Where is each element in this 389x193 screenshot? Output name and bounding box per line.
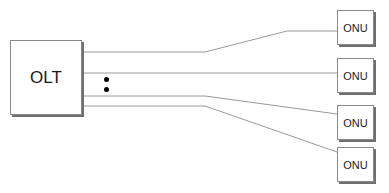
onu-box-1: ONU <box>337 10 374 45</box>
ellipsis-dot-1 <box>104 77 109 82</box>
onu-box-3: ONU <box>337 105 374 140</box>
onu-box-2: ONU <box>337 58 374 93</box>
fiber-line-1 <box>82 31 337 52</box>
onu-label: ONU <box>343 159 367 171</box>
onu-box-4: ONU <box>337 147 374 182</box>
onu-label: ONU <box>343 22 367 34</box>
onu-label: ONU <box>343 117 367 129</box>
fiber-line-4 <box>82 106 337 152</box>
olt-box: OLT <box>10 40 82 115</box>
fiber-line-3 <box>82 96 337 114</box>
onu-label: ONU <box>343 70 367 82</box>
ellipsis-dot-2 <box>104 87 109 92</box>
olt-label: OLT <box>30 68 62 88</box>
pon-diagram: OLT ONU ONU ONU ONU <box>0 0 389 193</box>
